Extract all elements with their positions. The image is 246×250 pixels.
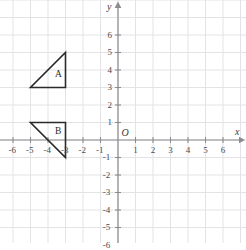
y-tick-label: -3 (103, 188, 111, 197)
shape-label-b: B (55, 127, 61, 137)
x-tick-label: -5 (26, 146, 34, 155)
y-tick-label: -2 (103, 171, 111, 180)
y-tick-label: 5 (107, 48, 112, 57)
x-axis-label: x (235, 127, 239, 137)
x-tick-label: 1 (133, 146, 138, 155)
x-tick-label: 6 (221, 146, 226, 155)
x-tick-label: -4 (43, 146, 51, 155)
y-tick-label: -6 (103, 241, 111, 250)
y-tick-label: -5 (103, 223, 111, 232)
x-tick-label: 4 (186, 146, 191, 155)
y-tick-label: -1 (103, 153, 111, 162)
x-tick-label: 2 (151, 146, 156, 155)
y-tick-label: 1 (107, 118, 112, 127)
y-tick-label: 2 (107, 101, 112, 110)
y-tick-label: 4 (107, 66, 112, 75)
y-tick-label: -4 (103, 206, 111, 215)
y-axis-label: y (107, 2, 111, 12)
x-tick-label: 3 (168, 146, 173, 155)
x-tick-label: -3 (61, 146, 69, 155)
origin-label: O (122, 128, 129, 138)
shape-label-a: A (55, 70, 62, 80)
x-tick-label: -2 (78, 146, 86, 155)
x-tick-label: 5 (203, 146, 208, 155)
y-tick-label: 3 (107, 83, 112, 92)
x-tick-label: -6 (8, 146, 16, 155)
y-tick-label: 6 (107, 31, 112, 40)
